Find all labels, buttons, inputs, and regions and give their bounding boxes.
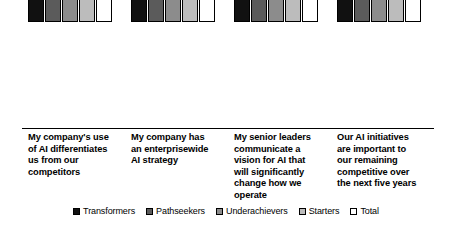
category-label-line: of AI differentiates xyxy=(28,144,128,156)
legend-swatch-icon xyxy=(216,208,223,215)
bar-rect xyxy=(62,0,78,22)
bar-starters-3: 49% xyxy=(388,0,404,22)
bar-total-0: 38% xyxy=(96,0,112,22)
category-label-line: the next five years xyxy=(337,178,441,190)
bar-underachievers-0: 30% xyxy=(62,0,78,22)
x-axis-line xyxy=(22,128,434,129)
category-label-line: us from our xyxy=(28,155,128,167)
bar-rect xyxy=(405,0,421,22)
category-label-line: are important to xyxy=(337,144,441,156)
bar-total-2: 40% xyxy=(302,0,318,22)
legend-item-underachievers[interactable]: Underachievers xyxy=(216,206,288,216)
bar-transformers-1: 60% xyxy=(131,0,147,22)
bar-pathseekers-3: 68% xyxy=(354,0,370,22)
category-label-3: Our AI initiatives are important to our … xyxy=(337,132,441,190)
legend-swatch-icon xyxy=(146,208,153,215)
bar-underachievers-2: 33% xyxy=(268,0,284,22)
bar-pathseekers-2: 45% xyxy=(251,0,267,22)
bar-rect xyxy=(165,0,181,22)
bar-rect xyxy=(354,0,370,22)
category-label-line: change how we xyxy=(234,178,334,190)
bar-rect xyxy=(79,0,95,22)
chart-legend: Transformers Pathseekers Underachievers … xyxy=(0,206,452,216)
category-label-line: My company's use xyxy=(28,132,128,144)
bar-starters-0: 22% xyxy=(79,0,95,22)
category-labels: My company's use of AI differentiates us… xyxy=(0,132,452,202)
bar-rect xyxy=(28,0,44,22)
category-label-0: My company's use of AI differentiates us… xyxy=(28,132,128,178)
legend-label: Pathseekers xyxy=(156,206,205,216)
category-label-line: vision for AI that xyxy=(234,155,334,167)
category-label-line: My senior leaders xyxy=(234,132,334,144)
category-label-line: an enterprisewide xyxy=(131,144,231,156)
bar-transformers-0: 55% xyxy=(28,0,44,22)
category-label-1: My company has an enterprisewide AI stra… xyxy=(131,132,231,167)
bar-total-3: 66% xyxy=(405,0,421,22)
legend-item-starters[interactable]: Starters xyxy=(299,206,340,216)
category-label-line: our remaining xyxy=(337,155,441,167)
category-label-line: competitive over xyxy=(337,167,441,179)
category-label-line: communicate a xyxy=(234,144,334,156)
category-label-2: My senior leaders communicate a vision f… xyxy=(234,132,334,202)
grouped-bar-chart: 55% 44% 30% 22% 38% xyxy=(0,0,452,237)
bar-pathseekers-0: 44% xyxy=(45,0,61,22)
category-label-line: operate xyxy=(234,190,334,202)
bar-rect xyxy=(148,0,164,22)
bar-starters-1: 19% xyxy=(182,0,198,22)
bar-rect xyxy=(371,0,387,22)
bar-rect xyxy=(285,0,301,22)
legend-item-transformers[interactable]: Transformers xyxy=(73,206,135,216)
legend-label: Starters xyxy=(309,206,340,216)
bar-total-1: 40% xyxy=(199,0,215,22)
category-label-line: Our AI initiatives xyxy=(337,132,441,144)
bar-rect xyxy=(45,0,61,22)
category-label-line: will significantly xyxy=(234,167,334,179)
bar-underachievers-1: 33% xyxy=(165,0,181,22)
bar-rect xyxy=(302,0,318,22)
bar-rect xyxy=(182,0,198,22)
legend-label: Total xyxy=(360,206,379,216)
bar-rect xyxy=(388,0,404,22)
bar-rect xyxy=(234,0,250,22)
bar-rect xyxy=(96,0,112,22)
legend-item-total[interactable]: Total xyxy=(350,206,379,216)
legend-label: Transformers xyxy=(83,206,135,216)
bar-pathseekers-1: 48% xyxy=(148,0,164,22)
bar-transformers-3: 79% xyxy=(337,0,353,22)
legend-swatch-icon xyxy=(73,208,80,215)
bar-transformers-2: 57% xyxy=(234,0,250,22)
bar-rect xyxy=(268,0,284,22)
bar-starters-2: 24% xyxy=(285,0,301,22)
category-label-line: My company has xyxy=(131,132,231,144)
category-label-line: competitors xyxy=(28,167,128,179)
plot-area: 55% 44% 30% 22% 38% xyxy=(0,0,452,131)
bar-rect xyxy=(251,0,267,22)
legend-swatch-icon xyxy=(299,208,306,215)
bar-rect xyxy=(337,0,353,22)
bar-rect xyxy=(199,0,215,22)
bar-underachievers-3: 69% xyxy=(371,0,387,22)
bar-rect xyxy=(131,0,147,22)
legend-item-pathseekers[interactable]: Pathseekers xyxy=(146,206,205,216)
legend-swatch-icon xyxy=(350,208,357,215)
category-label-line: AI strategy xyxy=(131,155,231,167)
legend-label: Underachievers xyxy=(226,206,288,216)
